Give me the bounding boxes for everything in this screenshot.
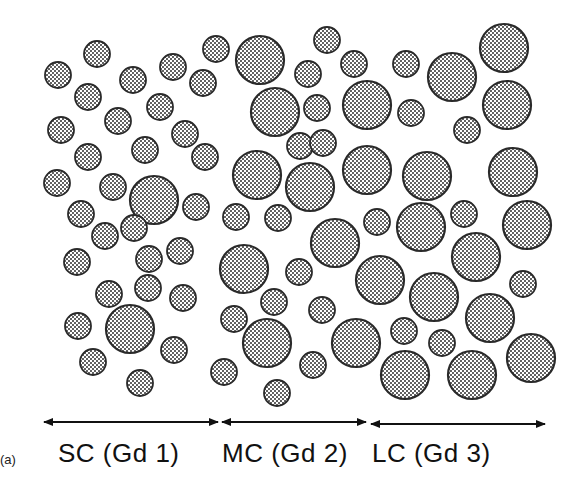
small-particle-circle <box>341 51 367 77</box>
large-particle-circle <box>343 146 391 194</box>
small-particle-circle <box>309 297 335 323</box>
large-particle-circle <box>251 88 299 136</box>
circles-canvas <box>0 0 588 483</box>
small-particle-circle <box>172 121 198 147</box>
small-particle-circle <box>120 67 146 93</box>
small-particle-circle <box>160 54 186 80</box>
small-particle-circle <box>80 349 106 375</box>
large-particle-circle <box>410 273 458 321</box>
small-particle-circle <box>136 246 162 272</box>
small-particle-circle <box>265 205 291 231</box>
small-particle-circle <box>393 51 419 77</box>
group-label-mc: MC (Gd 2) <box>222 438 348 469</box>
large-particle-circle <box>311 219 359 267</box>
large-particle-circle <box>448 351 496 399</box>
small-particle-circle <box>75 84 101 110</box>
small-particle-circle <box>127 370 153 396</box>
small-particle-circle <box>287 133 313 159</box>
small-particle-circle <box>84 41 110 67</box>
small-particle-circle <box>121 215 147 241</box>
small-particle-circle <box>65 313 91 339</box>
small-particle-circle <box>92 223 118 249</box>
small-particle-circle <box>314 27 340 53</box>
small-particle-circle <box>300 352 326 378</box>
small-particle-circle <box>510 271 536 297</box>
large-particle-circle <box>452 233 500 281</box>
large-particle-circle <box>243 319 291 367</box>
small-particle-circle <box>304 95 330 121</box>
small-particle-circle <box>132 137 158 163</box>
large-particle-circle <box>220 245 268 293</box>
small-particle-circle <box>100 174 126 200</box>
group-label-lc: LC (Gd 3) <box>372 438 491 469</box>
large-particle-circle <box>507 334 555 382</box>
small-particle-circle <box>45 62 71 88</box>
small-particle-circle <box>286 259 312 285</box>
large-particle-circle <box>356 256 404 304</box>
small-particle-circle <box>161 337 187 363</box>
small-particle-circle <box>261 289 287 315</box>
large-particle-circle <box>489 148 537 196</box>
small-particle-circle <box>454 117 480 143</box>
large-particle-circle <box>106 305 154 353</box>
large-particle-circle <box>236 36 284 84</box>
small-particle-circle <box>190 70 216 96</box>
large-particle-circle <box>233 151 281 199</box>
panel-label: (a) <box>0 452 16 467</box>
small-particle-circle <box>48 117 74 143</box>
particle-circles <box>44 24 555 406</box>
small-particle-circle <box>105 108 131 134</box>
small-particle-circle <box>451 201 477 227</box>
small-particle-circle <box>96 281 122 307</box>
small-particle-circle <box>264 380 290 406</box>
large-particle-circle <box>403 152 451 200</box>
small-particle-circle <box>391 318 417 344</box>
large-particle-circle <box>503 201 551 249</box>
small-particle-circle <box>211 359 237 385</box>
large-particle-circle <box>428 53 476 101</box>
small-particle-circle <box>364 209 390 235</box>
large-particle-circle <box>483 81 531 129</box>
small-particle-circle <box>64 249 90 275</box>
small-particle-circle <box>44 170 70 196</box>
large-particle-circle <box>343 81 391 129</box>
large-particle-circle <box>480 24 528 72</box>
small-particle-circle <box>167 238 193 264</box>
large-particle-circle <box>286 163 334 211</box>
small-particle-circle <box>203 36 229 62</box>
small-particle-circle <box>135 275 161 301</box>
small-particle-circle <box>310 130 336 156</box>
small-particle-circle <box>170 285 196 311</box>
large-particle-circle <box>332 319 380 367</box>
small-particle-circle <box>68 201 94 227</box>
small-particle-circle <box>192 144 218 170</box>
small-particle-circle <box>398 100 424 126</box>
small-particle-circle <box>147 94 173 120</box>
small-particle-circle <box>223 204 249 230</box>
small-particle-circle <box>221 306 247 332</box>
large-particle-circle <box>381 351 429 399</box>
particle-size-grade-diagram: (a) SC (Gd 1) MC (Gd 2) LC (Gd 3) <box>0 0 588 483</box>
range-arrows <box>44 422 545 424</box>
large-particle-circle <box>466 294 514 342</box>
small-particle-circle <box>75 144 101 170</box>
small-particle-circle <box>295 61 321 87</box>
large-particle-circle <box>397 203 445 251</box>
small-particle-circle <box>183 194 209 220</box>
small-particle-circle <box>429 330 455 356</box>
group-label-sc: SC (Gd 1) <box>58 438 180 469</box>
